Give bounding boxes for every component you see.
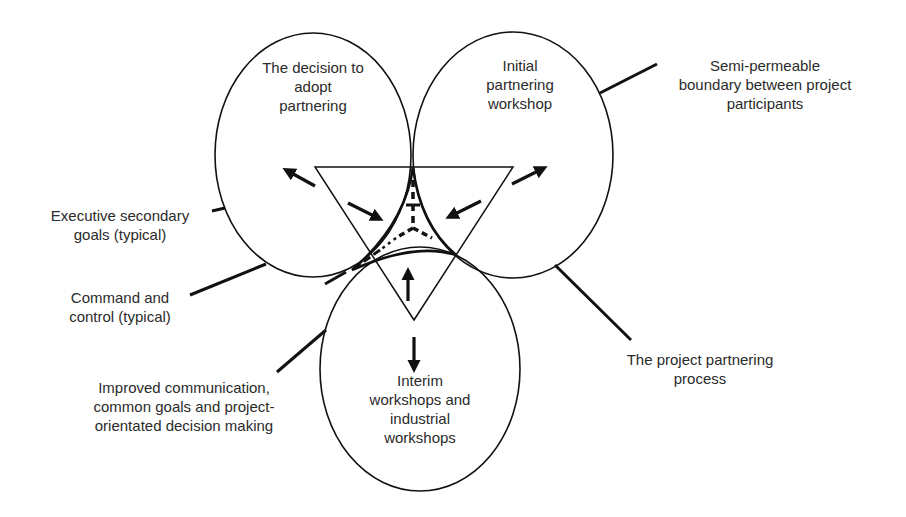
semi-permeable-callout: Semi-permeable boundary between project … [650,56,880,113]
improved-communication-callout: Improved communication, common goals and… [64,378,304,435]
leader-process [555,265,631,340]
arrow-to-initial [512,168,544,184]
arrow-from-initial [449,201,481,217]
phase-arrows [286,168,544,369]
decision-phase-label: The decision to adopt partnering [248,58,378,115]
central-zone-outline [352,167,456,270]
leader-semi-permeable [600,64,657,93]
leader-executive [212,208,225,211]
interim-workshops-ellipse [320,247,520,491]
leader-command [190,264,266,295]
command-control-callout: Command and control (typical) [50,288,190,326]
partnering-process-triangle [315,167,513,320]
initial-workshop-label: Initial partnering workshop [470,56,570,113]
arrow-from-decision [348,203,380,219]
executive-goals-callout: Executive secondary goals (typical) [30,206,210,244]
interim-workshops-label: Interim workshops and industrial worksho… [355,371,485,447]
project-process-callout: The project partnering process [600,350,800,388]
arrow-to-decision [286,170,315,186]
leader-improved [277,330,326,372]
